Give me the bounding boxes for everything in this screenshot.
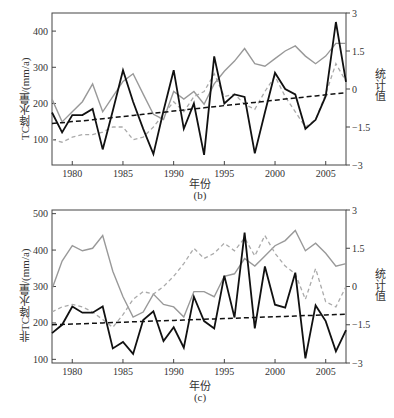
y-tick-label: 300 (33, 281, 48, 292)
y2-tick-label: 3 (352, 205, 357, 216)
y-axis-label-c: 非TC降水量/(mm/a) (17, 232, 33, 342)
figure-caption (50, 409, 350, 415)
y2-axis-label-c: 统计值 (372, 268, 388, 301)
y-tick-label: 200 (33, 317, 48, 328)
y-tick-label: 100 (33, 354, 48, 365)
y-tick-label: 500 (33, 208, 48, 219)
x-tick-label: 2005 (316, 366, 336, 377)
y2-tick-label: 0 (352, 281, 357, 292)
x-tick-label: 2000 (265, 366, 285, 377)
x-tick-label: 1985 (113, 366, 133, 377)
series-line (52, 236, 346, 328)
y2-tick-label: −3 (352, 358, 363, 369)
chart-c-plot: 10020030040050031.50−1.5−319801985199019… (0, 0, 394, 400)
panel-label-c: (c) (180, 391, 220, 403)
y2-tick-label: −1.5 (352, 319, 370, 330)
plot-frame (52, 210, 346, 363)
y-tick-label: 400 (33, 245, 48, 256)
series-line (52, 230, 346, 317)
panel-c: 10020030040050031.50−1.5−319801985199019… (0, 0, 394, 400)
x-tick-label: 1990 (164, 366, 184, 377)
y2-tick-label: 1.5 (352, 243, 365, 254)
series-line (52, 233, 346, 359)
x-tick-label: 1995 (214, 366, 234, 377)
x-tick-label: 1980 (62, 366, 82, 377)
